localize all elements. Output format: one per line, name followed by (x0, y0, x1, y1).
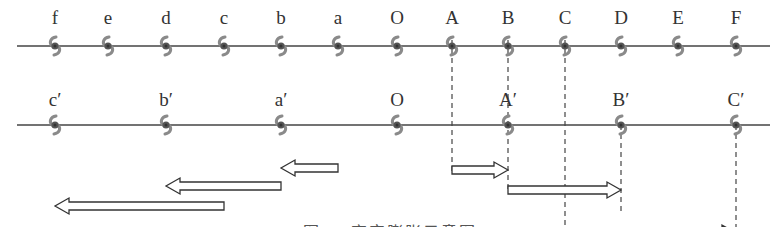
point-label: f (52, 8, 58, 27)
point-label: d (161, 8, 171, 27)
point-label: e (104, 8, 112, 27)
galaxy-icon (219, 37, 228, 55)
point-label: O (390, 8, 404, 27)
point-label: A (445, 8, 459, 27)
right-arrow-icon (452, 162, 508, 178)
point-label: E (672, 8, 684, 27)
axis-lines (17, 46, 770, 125)
galaxy-icon (50, 116, 59, 134)
galaxy-icon (161, 37, 170, 55)
right-arrow-icon (565, 225, 736, 227)
galaxy-icon (673, 37, 682, 55)
point-label: a′ (275, 90, 288, 109)
point-label: F (731, 8, 742, 27)
galaxy-icon (616, 37, 625, 55)
point-label: O (390, 90, 404, 109)
left-arrow-icon (55, 198, 224, 214)
point-label: a (334, 8, 342, 27)
galaxy-icon (103, 37, 112, 55)
galaxy-icon (276, 37, 285, 55)
point-label: b (276, 8, 286, 27)
point-label: b′ (159, 90, 173, 109)
galaxy-icons (50, 37, 740, 134)
expansion-diagram (0, 0, 780, 227)
displacement-arrows (55, 160, 736, 227)
point-label: C (559, 8, 572, 27)
galaxy-icon (616, 116, 625, 134)
galaxy-icon (392, 37, 401, 55)
galaxy-icon (161, 116, 170, 134)
galaxy-icon (392, 116, 401, 134)
galaxy-icon (731, 37, 740, 55)
galaxy-icon (731, 116, 740, 134)
point-label: A′ (499, 90, 517, 109)
point-label: C′ (728, 90, 745, 109)
galaxy-icon (50, 37, 59, 55)
point-label: B (502, 8, 515, 27)
point-label: B′ (613, 90, 630, 109)
point-label: c (220, 8, 228, 27)
left-arrow-icon (166, 178, 281, 194)
point-label: c′ (49, 90, 62, 109)
figure-caption: 图 — 宇宙膨胀示意图 (303, 219, 477, 227)
dashed-projection-lines (452, 40, 736, 227)
left-arrow-icon (281, 160, 338, 176)
galaxy-icon (333, 37, 342, 55)
point-label: D (614, 8, 628, 27)
galaxy-icon (276, 116, 285, 134)
